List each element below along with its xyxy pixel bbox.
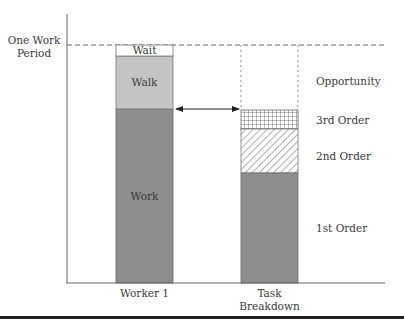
y-axis-label: One Work Period — [4, 34, 64, 60]
segment-label-walk: Walk — [116, 76, 173, 89]
segment-2nd-order — [241, 129, 298, 173]
segment-3rd-order — [241, 110, 298, 129]
y-axis-label-line-2: Period — [4, 47, 64, 60]
segment-1st-order — [241, 173, 298, 283]
segment-label-1st-order: 1st Order — [316, 222, 367, 235]
category-label-task-breakdown-line-1: Task — [229, 287, 310, 300]
segment-label-3rd-order: 3rd Order — [316, 114, 369, 127]
bar-task-breakdown — [241, 45, 298, 283]
y-axis-label-line-1: One Work — [4, 34, 64, 47]
segment-label-2nd-order: 2nd Order — [316, 150, 371, 163]
segment-label-opportunity: Opportunity — [316, 75, 381, 88]
segment-label-wait: Wait — [116, 44, 173, 57]
segment-label-work: Work — [116, 190, 173, 203]
category-label-task-breakdown-line-2: Breakdown — [229, 300, 310, 313]
category-label-worker-1: Worker 1 — [106, 287, 183, 300]
bottom-rule — [0, 316, 404, 319]
category-label-task-breakdown: Task Breakdown — [229, 287, 310, 313]
